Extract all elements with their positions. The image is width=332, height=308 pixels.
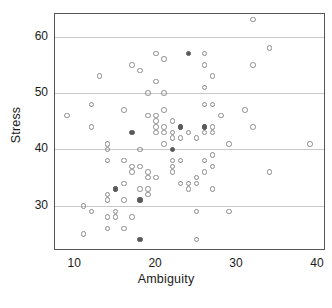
data-point	[137, 147, 143, 153]
data-point	[202, 51, 208, 57]
data-point	[170, 135, 176, 141]
data-point	[161, 107, 167, 113]
data-point	[105, 158, 111, 164]
x-tick-10: 10	[59, 256, 89, 270]
data-point	[145, 169, 151, 175]
data-point	[145, 175, 151, 181]
data-point	[186, 186, 192, 192]
data-point	[186, 51, 192, 57]
data-point	[137, 186, 143, 192]
data-point	[137, 237, 143, 243]
data-point	[153, 124, 159, 130]
data-point	[113, 214, 119, 220]
data-point	[210, 186, 216, 192]
data-point	[307, 141, 313, 147]
data-point	[210, 130, 216, 136]
data-point	[161, 90, 167, 96]
y-tick-40: 40	[18, 141, 48, 155]
data-point	[121, 158, 127, 164]
data-point	[242, 107, 248, 113]
gridline-y-60	[55, 37, 324, 38]
data-point	[129, 62, 135, 68]
data-point	[210, 164, 216, 170]
data-point	[161, 124, 167, 130]
data-point	[178, 124, 184, 130]
data-point	[178, 181, 184, 187]
x-axis-title: Ambiguity	[0, 272, 332, 286]
gridline-y-40	[55, 149, 324, 150]
data-point	[89, 209, 95, 215]
data-point	[194, 209, 200, 215]
caption-fragment	[14, 296, 314, 306]
data-point	[105, 214, 111, 220]
data-point	[105, 226, 111, 232]
data-point	[64, 113, 70, 119]
data-point	[153, 51, 159, 57]
data-point	[210, 102, 216, 108]
plot-area	[54, 13, 325, 250]
data-point	[194, 135, 200, 141]
data-point	[194, 175, 200, 181]
x-tick-30: 30	[221, 256, 251, 270]
data-point	[226, 209, 232, 215]
data-point	[97, 73, 103, 79]
data-point	[250, 62, 256, 68]
data-point	[137, 164, 143, 170]
data-point	[202, 169, 208, 175]
data-point	[170, 158, 176, 164]
data-point	[226, 141, 232, 147]
data-point	[153, 79, 159, 85]
data-point	[113, 186, 119, 192]
data-point	[161, 141, 167, 147]
data-point	[202, 62, 208, 68]
data-point	[218, 113, 224, 119]
gridline-y-50	[55, 93, 324, 94]
data-point	[210, 73, 216, 79]
data-point	[121, 181, 127, 187]
data-point	[170, 118, 176, 124]
data-point	[194, 181, 200, 187]
data-point	[170, 147, 176, 153]
data-point	[161, 56, 167, 62]
data-point	[121, 197, 127, 203]
data-point	[267, 45, 273, 51]
data-point	[250, 17, 256, 23]
data-point	[89, 102, 95, 108]
data-point	[145, 113, 151, 119]
data-point	[170, 169, 176, 175]
data-point	[145, 90, 151, 96]
data-point	[250, 124, 256, 130]
data-point	[129, 169, 135, 175]
data-point	[178, 135, 184, 141]
data-point	[105, 141, 111, 147]
data-point	[202, 158, 208, 164]
data-point	[186, 130, 192, 136]
data-point	[194, 237, 200, 243]
data-point	[81, 231, 87, 237]
y-tick-60: 60	[18, 29, 48, 43]
y-tick-30: 30	[18, 198, 48, 212]
data-point	[137, 197, 143, 203]
data-point	[202, 85, 208, 91]
x-tick-40: 40	[302, 256, 332, 270]
data-point	[202, 102, 208, 108]
data-point	[105, 147, 111, 153]
data-point	[89, 124, 95, 130]
data-point	[153, 130, 159, 136]
data-point	[129, 214, 135, 220]
data-point	[121, 107, 127, 113]
data-point	[267, 169, 273, 175]
data-point	[153, 175, 159, 181]
data-point	[105, 197, 111, 203]
data-point	[145, 192, 151, 198]
data-point	[178, 158, 184, 164]
data-point	[161, 130, 167, 136]
x-tick-20: 20	[140, 256, 170, 270]
gridline-y-30	[55, 206, 324, 207]
data-point	[210, 124, 216, 130]
y-tick-50: 50	[18, 85, 48, 99]
data-point	[121, 226, 127, 232]
data-point	[81, 203, 87, 209]
data-point	[137, 68, 143, 74]
data-point	[202, 130, 208, 136]
